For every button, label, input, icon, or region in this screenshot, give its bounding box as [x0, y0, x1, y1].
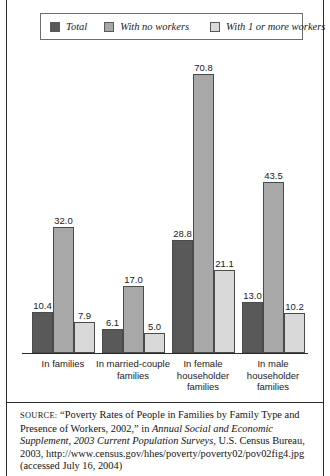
- legend-item-with-one-or-more-workers: With 1 or more workers: [210, 21, 325, 32]
- legend-swatch-one-or-more-workers-icon: [210, 22, 220, 32]
- bar: 7.9: [74, 322, 95, 353]
- bar: 13.0: [242, 302, 263, 353]
- legend-label-with-no-workers: With no workers: [120, 21, 189, 32]
- bar: 32.0: [53, 227, 74, 353]
- bar-value-label: 70.8: [194, 63, 213, 73]
- bar-value-label: 5.0: [148, 322, 161, 332]
- bar-value-label: 17.0: [124, 275, 143, 285]
- bar-value-label: 21.1: [215, 259, 234, 269]
- bar-value-label: 43.5: [264, 171, 283, 181]
- bar-value-label: 13.0: [243, 291, 262, 301]
- bar: 70.8: [193, 74, 214, 353]
- legend-item-with-no-workers: With no workers: [104, 21, 189, 32]
- bar: 28.8: [172, 240, 193, 353]
- chart-legend: Total With no workers With 1 or more wor…: [40, 13, 303, 40]
- x-axis-category-labels: In familiesIn married-couplefamiliesIn f…: [22, 358, 308, 404]
- legend-swatch-total-icon: [50, 22, 60, 32]
- bar-group: 28.870.821.1: [172, 54, 234, 353]
- page-rule-left: [6, 0, 7, 476]
- bar-value-label: 10.2: [285, 302, 304, 312]
- page-rule-right: [323, 0, 324, 476]
- bar-group: 6.117.05.0: [102, 54, 164, 353]
- source-prefix: SOURCE:: [20, 411, 57, 420]
- legend-swatch-no-workers-icon: [104, 22, 114, 32]
- legend-label-total: Total: [66, 21, 87, 32]
- bar-value-label: 28.8: [173, 229, 192, 239]
- bar: 10.4: [32, 312, 53, 353]
- source-note: SOURCE: “Poverty Rates of People in Fami…: [20, 409, 312, 473]
- bar: 17.0: [123, 286, 144, 353]
- figure-page: Total With no workers With 1 or more wor…: [0, 0, 330, 476]
- bar-value-label: 10.4: [33, 301, 52, 311]
- bar-chart-plot-area: 10.432.07.96.117.05.028.870.821.113.043.…: [22, 48, 308, 354]
- legend-item-total: Total: [50, 21, 87, 32]
- bar-value-label: 32.0: [54, 216, 73, 226]
- x-axis-label: In malehouseholderfamilies: [228, 358, 318, 393]
- legend-label-with-one-or-more-workers: With 1 or more workers: [226, 21, 325, 32]
- source-divider: [7, 402, 323, 403]
- bar: 43.5: [263, 182, 284, 353]
- bar-value-label: 7.9: [78, 311, 91, 321]
- bar: 5.0: [144, 333, 165, 353]
- x-axis-baseline: [22, 353, 308, 354]
- bar-value-label: 6.1: [106, 318, 119, 328]
- bar-group: 10.432.07.9: [32, 54, 94, 353]
- bar-group: 13.043.510.2: [242, 54, 304, 353]
- bar: 6.1: [102, 329, 123, 353]
- bar: 10.2: [284, 313, 305, 353]
- bar: 21.1: [214, 270, 235, 353]
